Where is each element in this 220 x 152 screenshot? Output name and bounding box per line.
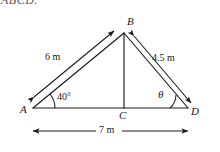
angle-arc-a xyxy=(50,94,55,108)
vertex-label-b: B xyxy=(127,16,134,27)
side-bd-length-label: 4.5 m xyxy=(152,53,175,63)
vertex-label-d: D xyxy=(191,106,199,117)
dimension-line-ab xyxy=(34,31,114,97)
side-ab-length-label: 6 m xyxy=(45,52,60,62)
vertex-label-c: C xyxy=(119,110,126,121)
angle-d-theta-label: θ xyxy=(158,89,163,100)
segment-ab xyxy=(33,33,124,108)
side-ad-length-label: 7 m xyxy=(99,125,114,135)
angle-arc-d xyxy=(170,95,176,108)
segment-bd xyxy=(124,33,188,108)
geometry-figure: ABCD. xyxy=(0,0,220,152)
vertex-label-a: A xyxy=(20,104,27,115)
dimension-arrow-ab xyxy=(34,31,114,97)
angle-a-label: 40° xyxy=(57,92,71,102)
